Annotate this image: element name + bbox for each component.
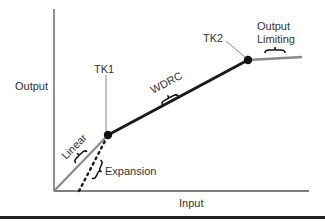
- tk2-label: TK2: [203, 32, 223, 44]
- bottom-rule: [0, 216, 325, 219]
- tk1-label: TK1: [94, 63, 114, 75]
- tk2-kneepoint: [244, 56, 252, 64]
- linear-label: Linear: [59, 131, 89, 161]
- tk2-leader: [226, 41, 246, 58]
- output-limiting-label-line1: Output: [257, 20, 290, 32]
- tk1-kneepoint: [104, 131, 112, 139]
- y-axis-label: Output: [15, 80, 48, 92]
- io-diagram: Output Input TK1 TK2 WDRC Output Limitin…: [0, 0, 325, 222]
- x-axis-label: Input: [179, 197, 203, 209]
- output-limiting-brace: [265, 47, 285, 53]
- wdrc-label: WDRC: [148, 69, 184, 96]
- output-limiting-label-line2: Limiting: [257, 33, 295, 45]
- expansion-label: Expansion: [105, 165, 156, 177]
- output-limiting-segment: [248, 57, 302, 60]
